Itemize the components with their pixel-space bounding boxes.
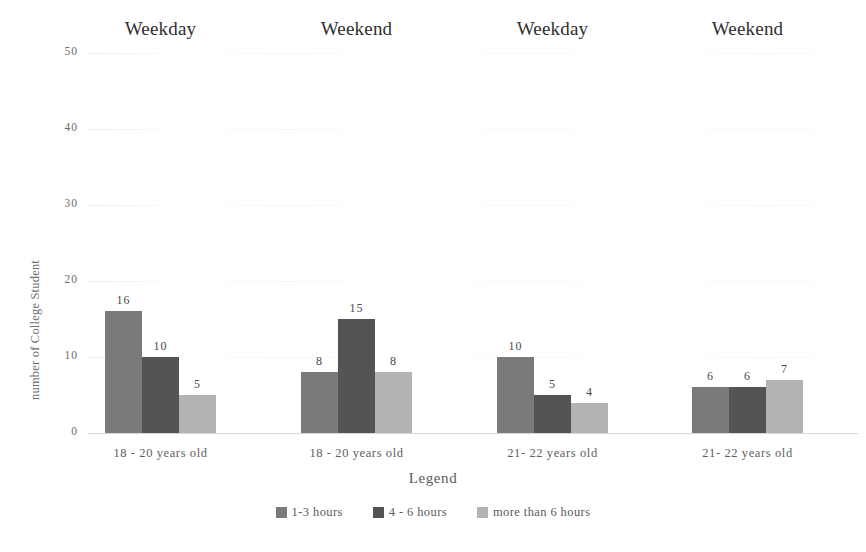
legend-label: 1-3 hours [292,505,343,520]
y-tick-label: 10 [44,349,78,361]
bar-value-label: 16 [95,293,152,308]
bar [692,387,729,433]
bar [179,395,216,433]
x-axis-group-label: 21- 22 years old [658,446,838,461]
period-header: Weekday [81,18,241,40]
legend-item[interactable]: more than 6 hours [477,505,590,520]
bar [105,311,142,433]
bar-value-label: 7 [756,362,813,377]
legend-swatch-icon [276,507,287,518]
legend-label: more than 6 hours [493,505,590,520]
bar [375,372,412,433]
period-header: Weekday [473,18,633,40]
y-tick-label: 30 [44,197,78,209]
legend: 1-3 hours4 - 6 hoursmore than 6 hours [0,505,866,520]
bar-value-label: 8 [365,354,422,369]
gridline [88,205,858,206]
legend-swatch-icon [477,507,488,518]
legend-item[interactable]: 1-3 hours [276,505,343,520]
x-axis-group-label: 18 - 20 years old [71,446,251,461]
x-axis-group-label: 18 - 20 years old [267,446,447,461]
legend-swatch-icon [373,507,384,518]
x-axis-title: Legend [0,470,866,487]
bar [497,357,534,433]
bar [338,319,375,433]
y-tick-label: 50 [44,45,78,57]
bar [301,372,338,433]
bar-value-label: 15 [328,301,385,316]
gridline [88,281,858,282]
bar [534,395,571,433]
bar-value-label: 10 [132,339,189,354]
legend-item[interactable]: 4 - 6 hours [373,505,447,520]
gridline [88,129,858,130]
gridline [88,53,858,54]
y-tick-label: 0 [44,425,78,437]
period-header: Weekend [668,18,828,40]
bar-value-label: 4 [561,385,618,400]
y-tick-label: 40 [44,121,78,133]
bar [729,387,766,433]
gridline [88,357,858,358]
y-tick-label: 20 [44,273,78,285]
bar [766,380,803,433]
bar-chart: WeekdayWeekendWeekdayWeekend number of C… [0,0,866,552]
bar-value-label: 10 [487,339,544,354]
legend-label: 4 - 6 hours [389,505,447,520]
x-axis-group-label: 21- 22 years old [463,446,643,461]
axis-baseline [88,433,858,434]
bar [571,403,608,433]
bar [142,357,179,433]
bar-value-label: 5 [169,377,226,392]
period-header: Weekend [277,18,437,40]
